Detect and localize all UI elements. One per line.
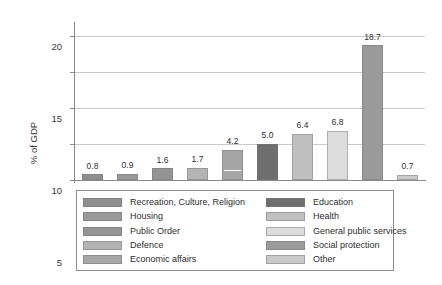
bar[interactable]: 0.9	[117, 25, 139, 180]
bar-value-label: 0.8	[87, 162, 99, 171]
y-axis-tick-label: 10	[51, 186, 62, 196]
bar[interactable]: 1.6	[152, 25, 174, 180]
x-axis-line	[74, 180, 426, 181]
legend-label: Other	[313, 255, 336, 264]
legend-column-right: EducationHealthGeneral public servicesSo…	[266, 196, 395, 266]
legend-swatch	[83, 255, 122, 264]
y-axis-tick-label: 5	[57, 258, 62, 268]
legend-item[interactable]: Social protection	[266, 239, 395, 252]
bar-value-label: 0.9	[122, 161, 134, 170]
legend-item[interactable]: Other	[266, 253, 395, 266]
bar[interactable]: 1.7	[187, 25, 209, 180]
legend-swatch	[83, 212, 122, 221]
legend-label: Economic affairs	[130, 255, 196, 264]
legend-item[interactable]: Health	[266, 210, 395, 223]
bar-rect[interactable]	[82, 174, 104, 180]
bar-rect[interactable]	[362, 45, 384, 180]
legend-label: Defence	[130, 241, 164, 250]
bar[interactable]: 5.0	[257, 25, 279, 180]
bar-value-label: 1.6	[157, 156, 169, 165]
bars-layer: 0.80.91.61.74.25.06.46.818.70.7	[75, 25, 425, 180]
legend-label: Education	[313, 198, 353, 207]
bar-value-label: 18.7	[364, 33, 381, 42]
legend-swatch	[266, 255, 305, 264]
legend-label: Health	[313, 212, 339, 221]
bar-rect[interactable]	[152, 168, 174, 180]
plot-area: 05101520 0.80.91.61.74.25.06.46.818.70.7	[75, 25, 425, 180]
bar-rect[interactable]	[397, 175, 419, 180]
bar-value-label: 6.4	[297, 121, 309, 130]
legend-column-left: Recreation, Culture, ReligionHousingPubl…	[83, 196, 266, 266]
y-axis-tick-label: 15	[51, 114, 62, 124]
legend-swatch	[266, 198, 305, 207]
legend-label: General public services	[313, 227, 407, 236]
bar-rect[interactable]	[117, 174, 139, 180]
legend-item[interactable]: Housing	[83, 210, 266, 223]
legend-label: Recreation, Culture, Religion	[130, 198, 245, 207]
legend-swatch	[266, 212, 305, 221]
bar-value-label: 6.8	[332, 118, 344, 127]
legend-label: Social protection	[313, 241, 380, 250]
legend-item[interactable]: Public Order	[83, 225, 266, 238]
bar-rect[interactable]	[327, 131, 349, 180]
bar[interactable]: 4.2	[222, 25, 244, 180]
bar[interactable]: 6.8	[327, 25, 349, 180]
bar-rect[interactable]	[187, 168, 209, 180]
y-axis-title: % of GDP	[28, 121, 39, 163]
bar-value-label: 1.7	[192, 155, 204, 164]
bar-value-label: 5.0	[262, 131, 274, 140]
legend-item[interactable]: Defence	[83, 239, 266, 252]
bar-rect[interactable]	[292, 134, 314, 180]
bar-inner-divider	[224, 170, 242, 172]
bar-value-label: 0.7	[402, 162, 414, 171]
legend-swatch	[266, 241, 305, 250]
bar[interactable]: 18.7	[362, 25, 384, 180]
legend: Recreation, Culture, ReligionHousingPubl…	[76, 190, 394, 271]
legend-label: Public Order	[130, 227, 180, 236]
legend-item[interactable]: Economic affairs	[83, 253, 266, 266]
bar-value-label: 4.2	[227, 137, 239, 146]
bar[interactable]: 6.4	[292, 25, 314, 180]
legend-item[interactable]: Education	[266, 196, 395, 209]
legend-swatch	[83, 227, 122, 236]
legend-label: Housing	[130, 212, 163, 221]
legend-item[interactable]: General public services	[266, 225, 395, 238]
legend-swatch	[83, 198, 122, 207]
bar-rect[interactable]	[257, 144, 279, 180]
y-axis-tick-label: 20	[51, 42, 62, 52]
bar-rect[interactable]	[222, 150, 244, 180]
bar-chart: % of GDP 05101520 0.80.91.61.74.25.06.46…	[0, 0, 442, 285]
legend-swatch	[83, 241, 122, 250]
legend-swatch	[266, 227, 305, 236]
legend-item[interactable]: Recreation, Culture, Religion	[83, 196, 266, 209]
y-axis-tick: 0	[70, 180, 75, 181]
bar[interactable]: 0.7	[397, 25, 419, 180]
bar[interactable]: 0.8	[82, 25, 104, 180]
